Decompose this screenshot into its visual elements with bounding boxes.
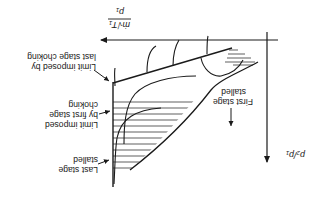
last-stage-stalled-region xyxy=(225,48,258,70)
svg-text:by first stage: by first stage xyxy=(49,110,98,120)
svg-text:p₁: p₁ xyxy=(116,7,125,17)
first-stage-stall-line xyxy=(130,62,258,170)
compressor-map-diagram: p₂/p₁ ṁ√T₁ p₁ xyxy=(0,0,311,198)
svg-text:ṁ√T₁: ṁ√T₁ xyxy=(109,20,130,30)
label-first-stage-choking: Limit imposed by first stage choking xyxy=(45,100,98,130)
svg-text:Limit imposed by: Limit imposed by xyxy=(31,62,96,72)
leader-last-stage-stalled xyxy=(98,160,109,164)
x-axis-label: ṁ√T₁ p₁ xyxy=(108,7,131,30)
svg-text:stalled: stalled xyxy=(73,155,98,165)
svg-text:Last stage: Last stage xyxy=(58,165,98,175)
label-first-stage-stalled: First stage stalled xyxy=(213,87,253,107)
y-axis-label: p₂/p₁ xyxy=(286,150,306,160)
leader-first-stage-choking xyxy=(99,111,110,114)
label-last-stage-choking: Limit imposed by last stage choking xyxy=(27,52,96,72)
svg-text:choking: choking xyxy=(68,100,98,110)
first-stage-stalled-region xyxy=(111,102,251,168)
svg-text:Limit imposed: Limit imposed xyxy=(45,120,98,130)
svg-text:First stage: First stage xyxy=(213,97,253,107)
label-last-stage-stalled: Last stage stalled xyxy=(58,155,98,175)
svg-text:stalled: stalled xyxy=(221,87,246,97)
leader-last-stage-choking xyxy=(94,70,109,81)
svg-text:last stage choking: last stage choking xyxy=(27,52,96,62)
